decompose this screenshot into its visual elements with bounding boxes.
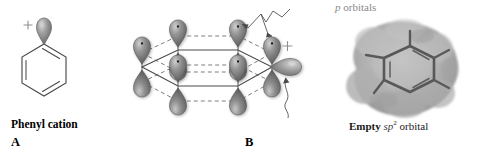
ring-vertical-connectors bbox=[142, 36, 272, 101]
empty-sp2-leader-line bbox=[285, 78, 288, 118]
panel-a-skeletal-structure: Phenyl cation A bbox=[0, 0, 130, 155]
panel-a-drawing bbox=[0, 0, 130, 155]
benzene-double-bonds-a bbox=[26, 49, 60, 92]
panel-a-name-caption: Phenyl cation bbox=[11, 119, 78, 131]
p-orbitals-leader-line bbox=[242, 9, 290, 36]
panel-b-drawing bbox=[120, 0, 315, 155]
empty-sp2-orbital bbox=[270, 59, 302, 76]
positive-charge-a bbox=[24, 21, 32, 29]
panel-b-letter-caption: B bbox=[245, 136, 253, 149]
orbital-lobe-a bbox=[37, 18, 52, 45]
phenyl-cation-figure: Phenyl cation A bbox=[0, 0, 481, 155]
sigma-ring-hexagon bbox=[142, 50, 272, 86]
upper-node-hexagon bbox=[142, 36, 272, 72]
panel-b-orbital-diagram: p orbitals Empty sp2 orbital B bbox=[120, 0, 315, 155]
p-orbitals-upper-set bbox=[134, 20, 281, 82]
panel-c-drawing bbox=[310, 0, 481, 155]
empty-sp2-arrowhead bbox=[283, 77, 289, 83]
panel-c-electrostatic-potential-map: C bbox=[310, 0, 481, 155]
lower-node-hexagon bbox=[142, 65, 272, 101]
p-orbitals-lower-set bbox=[134, 53, 281, 115]
panel-a-letter-caption: A bbox=[11, 136, 20, 149]
benzene-ring-a bbox=[22, 44, 66, 96]
positive-charge-b bbox=[283, 42, 292, 51]
